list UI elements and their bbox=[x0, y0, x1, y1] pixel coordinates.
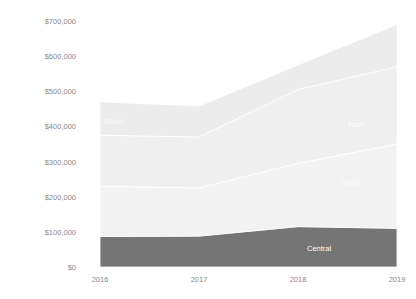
x-tick-label: 2018 bbox=[290, 275, 307, 284]
stacked-area-chart: $0$100,000$200,000$300,000$400,000$500,0… bbox=[0, 0, 416, 299]
x-axis: 2016201720182019 bbox=[92, 275, 406, 284]
y-tick-label: $400,000 bbox=[45, 122, 76, 131]
legend-strip bbox=[0, 289, 416, 299]
y-tick-label: $200,000 bbox=[45, 193, 76, 202]
y-tick-label: $300,000 bbox=[45, 158, 76, 167]
y-tick-label: $100,000 bbox=[45, 228, 76, 237]
y-tick-label: $0 bbox=[68, 263, 76, 272]
band-label-east: East bbox=[348, 120, 364, 129]
area-series bbox=[100, 25, 397, 268]
y-tick-label: $500,000 bbox=[45, 87, 76, 96]
band-label-west: West bbox=[342, 178, 360, 187]
x-tick-label: 2016 bbox=[92, 275, 109, 284]
band-label-south: South bbox=[104, 117, 124, 126]
y-tick-label: $600,000 bbox=[45, 52, 76, 61]
y-tick-label: $700,000 bbox=[45, 17, 76, 26]
y-axis: $0$100,000$200,000$300,000$400,000$500,0… bbox=[45, 17, 76, 272]
x-tick-label: 2019 bbox=[389, 275, 406, 284]
x-tick-label: 2017 bbox=[191, 275, 208, 284]
band-label-central: Central bbox=[307, 244, 332, 253]
